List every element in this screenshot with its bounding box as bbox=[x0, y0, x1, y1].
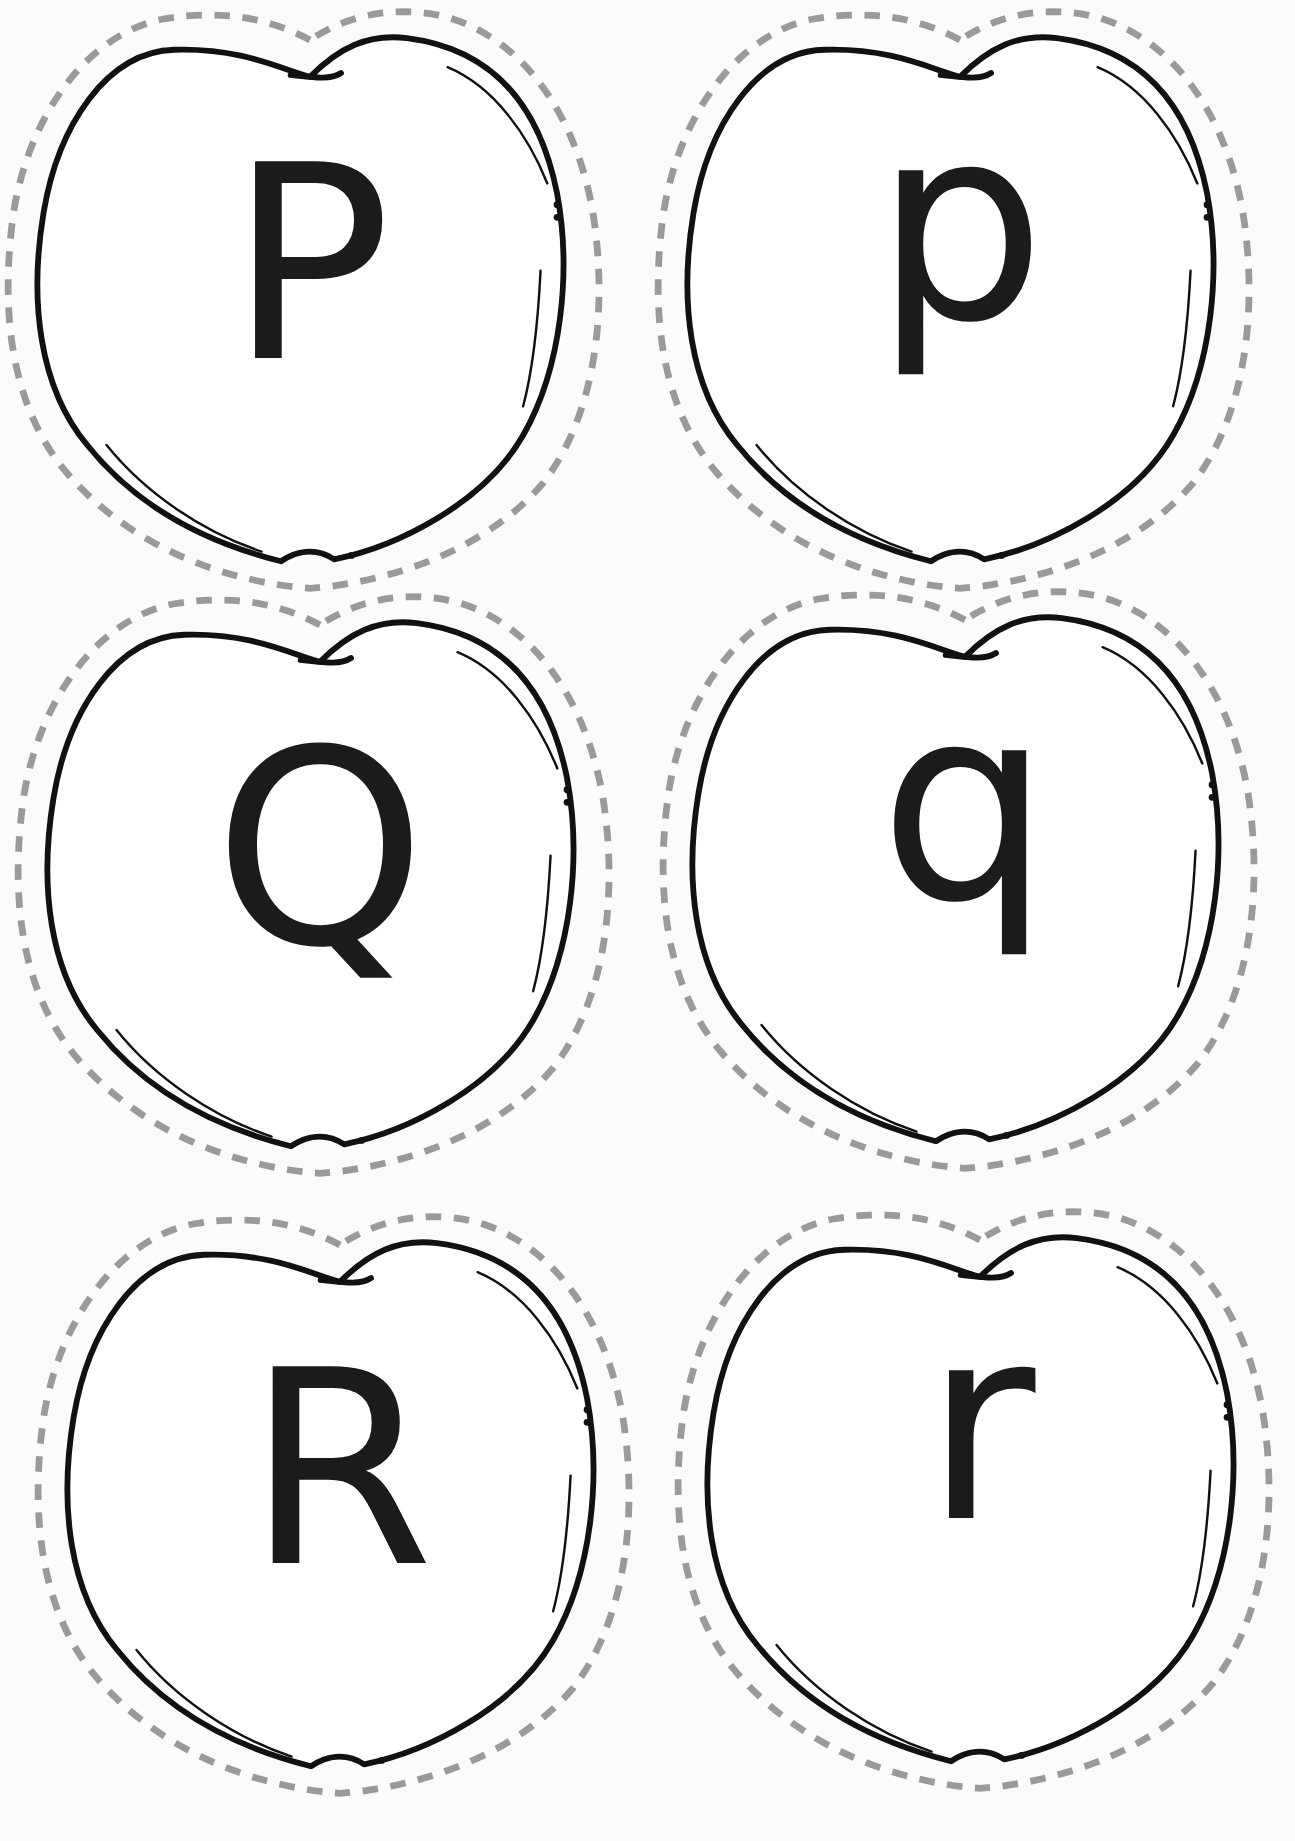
apple-icon bbox=[660, 1180, 1295, 1800]
apple-card-r: r bbox=[660, 1180, 1295, 1800]
apple-icon bbox=[645, 560, 1285, 1180]
apple-card-R: R bbox=[20, 1185, 660, 1805]
apple-icon bbox=[0, 565, 640, 1185]
apple-icon bbox=[20, 1185, 660, 1805]
apple-card-p: p bbox=[640, 0, 1280, 600]
apple-card-P: P bbox=[0, 0, 630, 600]
apple-card-Q: Q bbox=[0, 565, 640, 1185]
apple-card-q: q bbox=[645, 560, 1285, 1180]
apple-icon bbox=[640, 0, 1280, 600]
apple-icon bbox=[0, 0, 630, 600]
